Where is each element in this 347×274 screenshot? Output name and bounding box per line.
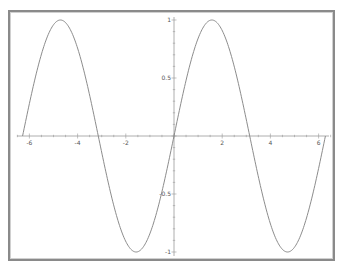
y-tick-label: 0.5 xyxy=(161,74,171,81)
x-tick-label: -2 xyxy=(123,139,129,146)
sine-plot: -6-4-224610.5-0.5-1 xyxy=(0,0,347,274)
x-tick-label: -6 xyxy=(26,139,32,146)
x-tick-label: -4 xyxy=(75,139,81,146)
tick-labels: -6-4-224610.5-0.5-1 xyxy=(26,16,320,255)
x-tick-label: 6 xyxy=(317,139,321,146)
x-tick-label: 2 xyxy=(220,139,224,146)
y-tick-label: 1 xyxy=(167,16,171,23)
x-tick-label: 4 xyxy=(268,139,272,146)
y-tick-label: -1 xyxy=(165,248,171,255)
